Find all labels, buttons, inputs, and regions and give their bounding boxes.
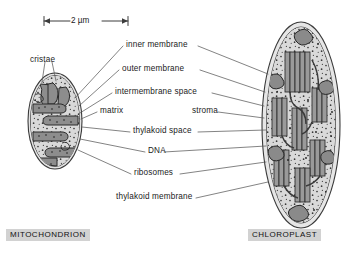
leader-ribosomes-left [78, 150, 131, 174]
figure-canvas: 2 µm cristae inner membrane outer membra… [0, 0, 356, 260]
chloroplast-figure [262, 22, 340, 228]
label-stroma: stroma [192, 107, 218, 115]
mitochondrion-figure [28, 73, 82, 176]
label-thylakoid-membrane: thylakoid membrane [116, 193, 192, 201]
label-intermembrane-space: intermembrane space [115, 88, 197, 96]
leader-matrix [81, 112, 97, 119]
organelle-tag-chloroplast: CHLOROPLAST [248, 229, 321, 241]
leader-thylakoid-space-right [198, 130, 266, 132]
leader-thylakoid-space-left [82, 127, 130, 132]
leader-dna-right [164, 146, 266, 152]
leader-stroma [218, 112, 264, 118]
leader-dna-left [80, 139, 145, 152]
label-thylakoid-space: thylakoid space [133, 127, 192, 135]
mitochondrion-interior [31, 76, 80, 177]
leader-ribosomes-right [180, 162, 266, 174]
label-dna: DNA [148, 147, 166, 155]
label-cristae: cristae [30, 56, 55, 64]
label-ribosomes: ribosomes [134, 169, 173, 177]
leader-outer-membrane-right [200, 70, 265, 92]
organelle-tag-mitochondrion: MITOCHONDRION [6, 229, 90, 241]
leader-inner-membrane-right [198, 46, 268, 74]
label-outer-membrane: outer membrane [122, 65, 184, 73]
leader-thylakoid-membrane [196, 182, 268, 198]
label-inner-membrane: inner membrane [126, 41, 188, 49]
leader-intermembrane-right [212, 93, 264, 106]
scale-bar-label: 2 µm [71, 16, 89, 25]
label-matrix: matrix [100, 107, 123, 115]
leader-outer-membrane-left [79, 70, 119, 106]
